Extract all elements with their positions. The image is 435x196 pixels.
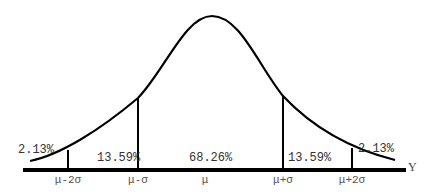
region-label-left-sigma: 13.59%	[97, 151, 141, 165]
tick-mu-minus-2sigma: μ-2σ	[55, 174, 82, 186]
tick-mu-minus-sigma: μ-σ	[128, 174, 148, 186]
axis-label-y: Y	[408, 160, 417, 174]
bell-curve	[30, 16, 395, 161]
tick-mu: μ	[202, 174, 209, 186]
region-label-right-tail: 2.13%	[358, 142, 395, 156]
region-label-right-sigma: 13.59%	[288, 151, 332, 165]
region-label-center: 68.26%	[189, 151, 233, 165]
tick-mu-plus-sigma: μ+σ	[273, 174, 293, 186]
tick-mu-plus-2sigma: μ+2σ	[339, 174, 366, 186]
region-label-left-tail: 2.13%	[18, 143, 55, 157]
normal-curve-diagram: 2.13% 13.59% 68.26% 13.59% 2.13% μ-2σ μ-…	[0, 0, 435, 196]
